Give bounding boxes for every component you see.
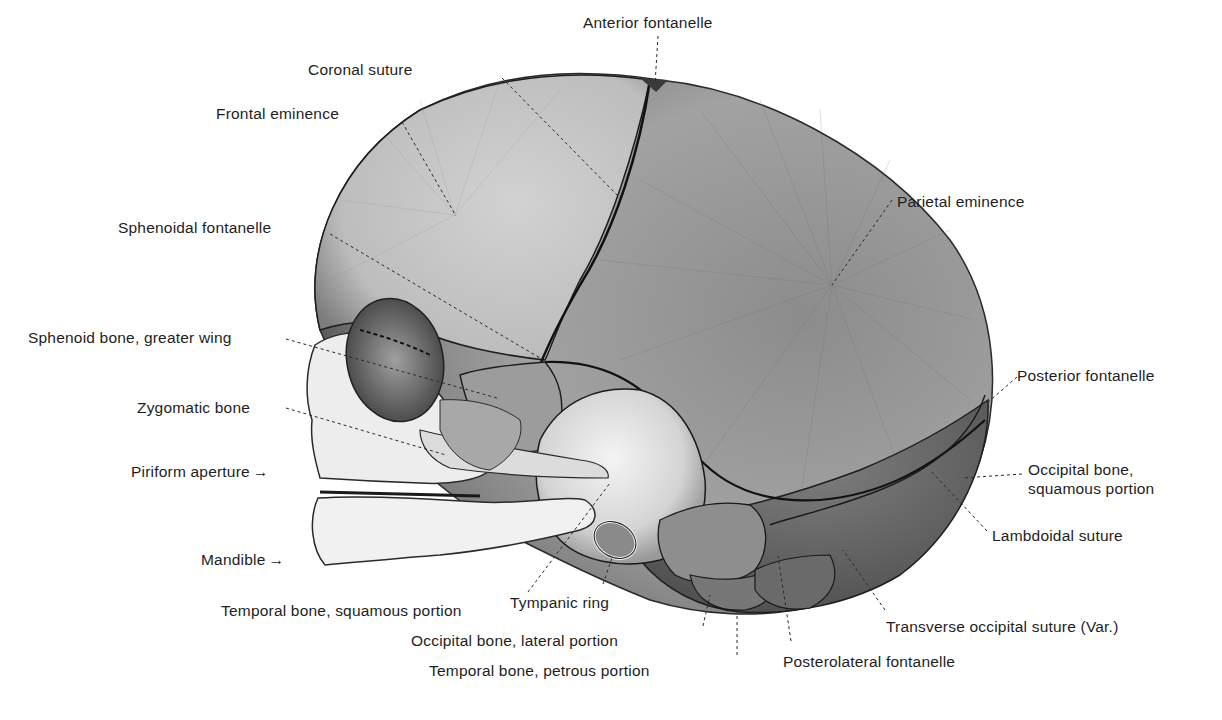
label-piriform-aperture-text: Piriform aperture [131, 463, 250, 480]
label-occipital-squamous-line1: Occipital bone, [1028, 460, 1154, 479]
label-transverse-occipital-suture: Transverse occipital suture (Var.) [886, 617, 1119, 636]
label-coronal-suture: Coronal suture [308, 60, 412, 79]
arrow-icon: → [253, 463, 269, 480]
label-occipital-squamous: Occipital bone, squamous portion [1028, 460, 1154, 498]
label-zygomatic-bone: Zygomatic bone [137, 398, 250, 417]
label-occipital-lateral: Occipital bone, lateral portion [411, 631, 618, 650]
label-sphenoidal-fontanelle: Sphenoidal fontanelle [118, 218, 271, 237]
label-lambdoidal-suture: Lambdoidal suture [992, 526, 1123, 545]
label-posterior-fontanelle: Posterior fontanelle [1017, 366, 1155, 385]
label-posterolateral-fontanelle: Posterolateral fontanelle [783, 652, 955, 671]
occipital-lateral-plate [658, 503, 766, 583]
label-occipital-squamous-line2: squamous portion [1028, 479, 1154, 498]
label-parietal-eminence: Parietal eminence [897, 192, 1024, 211]
arrow-icon: → [269, 551, 285, 568]
label-sphenoid-greater-wing: Sphenoid bone, greater wing [28, 328, 232, 347]
label-tympanic-ring: Tympanic ring [510, 593, 609, 612]
label-frontal-eminence: Frontal eminence [216, 104, 339, 123]
label-piriform-aperture: Piriform aperture→ [131, 462, 269, 481]
label-anterior-fontanelle: Anterior fontanelle [583, 13, 713, 32]
label-temporal-squamous: Temporal bone, squamous portion [221, 601, 462, 620]
label-temporal-petrous: Temporal bone, petrous portion [429, 661, 650, 680]
label-mandible: Mandible→ [201, 550, 284, 569]
skull-illustration [0, 0, 1222, 720]
label-mandible-text: Mandible [201, 551, 266, 568]
skull-diagram: Anterior fontanelle Coronal suture Front… [0, 0, 1222, 720]
